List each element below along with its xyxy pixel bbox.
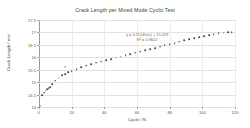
- gridline-vertical: [170, 20, 171, 107]
- y-axis-title: Crack Length / mm: [6, 23, 11, 83]
- data-point: [95, 62, 97, 64]
- x-tick-label: 0: [38, 110, 40, 115]
- data-point: [130, 53, 132, 55]
- x-tick-mark: [137, 107, 138, 109]
- y-tick-label: 14: [31, 105, 36, 110]
- y-tick-label: 17.5: [28, 18, 36, 23]
- trendline-r-squared: R² = 0.9602: [126, 37, 168, 42]
- y-tick-mark: [37, 20, 39, 21]
- y-tick-label: 15.5: [28, 67, 36, 72]
- y-tick-label: 16.5: [28, 42, 36, 47]
- y-tick-label: 15: [31, 80, 36, 85]
- x-tick-mark: [235, 107, 236, 109]
- y-tick-mark: [37, 95, 39, 96]
- chart-container: Crack Length per Mixed Mode Cyclic Test …: [0, 0, 250, 128]
- gridline-vertical: [202, 20, 203, 107]
- data-point: [223, 32, 225, 34]
- y-tick-mark: [37, 82, 39, 83]
- data-point: [154, 47, 156, 49]
- x-tick-mark: [170, 107, 171, 109]
- data-point: [40, 105, 42, 107]
- y-tick-mark: [37, 70, 39, 71]
- y-tick-mark: [37, 32, 39, 33]
- y-tick-mark: [37, 57, 39, 58]
- data-point: [120, 56, 122, 58]
- trendline-equation-annotation: y = 0.2514ln(x) + 15.029 R² = 0.9602: [126, 32, 168, 43]
- data-point: [90, 63, 92, 65]
- data-point: [231, 31, 233, 33]
- data-point: [43, 92, 45, 94]
- x-tick-label: 20: [69, 110, 74, 115]
- x-axis-title: Cycle / N: [39, 117, 235, 122]
- data-point: [71, 70, 73, 72]
- data-point: [45, 90, 47, 92]
- data-point: [64, 73, 66, 75]
- chart-title: Crack Length per Mixed Mode Cyclic Test: [0, 7, 250, 13]
- data-point: [164, 45, 166, 47]
- x-tick-mark: [72, 107, 73, 109]
- data-point: [110, 58, 112, 60]
- x-tick-mark: [104, 107, 105, 109]
- data-point: [51, 83, 53, 85]
- data-point: [50, 86, 52, 88]
- data-point-outlier: [64, 66, 66, 68]
- gridline-vertical: [72, 20, 73, 107]
- data-point: [76, 68, 78, 70]
- y-tick-label: 16: [31, 55, 36, 60]
- y-tick-label: 17: [31, 30, 36, 35]
- data-point: [218, 33, 220, 35]
- data-point: [41, 94, 43, 96]
- data-point: [81, 66, 83, 68]
- data-point: [144, 49, 146, 51]
- data-point: [105, 59, 107, 61]
- data-point: [228, 31, 230, 33]
- data-point: [135, 52, 137, 54]
- x-tick-mark: [39, 107, 40, 109]
- data-point: [54, 80, 56, 82]
- data-point: [149, 48, 151, 50]
- x-tick-label: 40: [102, 110, 107, 115]
- x-tick-label: 80: [167, 110, 172, 115]
- data-point: [208, 34, 210, 36]
- data-point: [184, 40, 186, 42]
- gridline-vertical: [235, 20, 236, 107]
- data-point: [100, 61, 102, 63]
- data-point: [61, 75, 63, 77]
- data-point: [193, 37, 195, 39]
- data-point: [198, 36, 200, 38]
- data-point: [203, 35, 205, 37]
- data-point: [68, 72, 70, 74]
- data-point: [115, 57, 117, 59]
- data-point: [169, 43, 171, 45]
- data-point: [188, 38, 190, 40]
- data-point: [159, 46, 161, 48]
- data-point: [125, 54, 127, 56]
- y-tick-mark: [37, 45, 39, 46]
- data-point: [174, 42, 176, 44]
- data-point: [213, 33, 215, 35]
- data-point: [86, 65, 88, 67]
- data-point: [179, 41, 181, 43]
- data-point: [139, 51, 141, 53]
- x-tick-mark: [202, 107, 203, 109]
- x-tick-label: 120: [232, 110, 239, 115]
- gridline-vertical: [104, 20, 105, 107]
- x-tick-label: 60: [135, 110, 140, 115]
- x-tick-label: 100: [199, 110, 206, 115]
- y-tick-label: 14.5: [28, 92, 36, 97]
- data-point: [58, 77, 60, 79]
